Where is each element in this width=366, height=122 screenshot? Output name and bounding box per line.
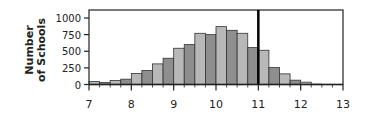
histogram-bar (216, 27, 227, 85)
histogram-bar (121, 79, 132, 84)
histogram-bars (89, 27, 322, 85)
y-tick-label: 250 (62, 63, 81, 74)
histogram-bar (195, 33, 206, 84)
y-axis: 02505007501000 (56, 13, 89, 91)
histogram-bar (258, 50, 269, 84)
histogram-bar (174, 48, 185, 84)
x-tick-label: 13 (336, 98, 350, 111)
y-axis-label-line-2: of Schools (35, 18, 48, 82)
y-tick-label: 750 (62, 30, 81, 41)
x-tick-label: 8 (128, 98, 135, 111)
histogram-bar (237, 33, 248, 84)
histogram-bar (269, 68, 280, 85)
x-tick-label: 9 (170, 98, 177, 111)
histogram-bar (153, 64, 164, 85)
histogram-bar (248, 48, 259, 85)
histogram-bar (163, 58, 174, 84)
histogram-chart: Number of Schools 78910111213 0250500750… (0, 0, 366, 122)
histogram-bar (227, 30, 238, 84)
histogram-bar (184, 45, 195, 85)
y-tick-label: 0 (75, 80, 81, 91)
y-tick-label: 500 (62, 46, 81, 57)
y-axis-label: Number of Schools (23, 18, 48, 82)
histogram-bar (205, 35, 216, 85)
histogram-bar (280, 74, 291, 85)
x-tick-label: 11 (251, 98, 265, 111)
x-tick-label: 12 (294, 98, 308, 111)
x-axis: 78910111213 (86, 85, 351, 112)
histogram-bar (131, 74, 142, 85)
histogram-bar (142, 71, 153, 85)
y-tick-label: 1000 (56, 13, 81, 24)
x-tick-label: 7 (86, 98, 93, 111)
x-tick-label: 10 (209, 98, 223, 111)
